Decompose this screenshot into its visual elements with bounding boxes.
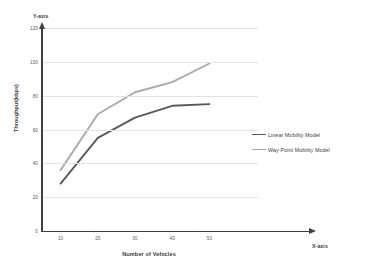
chart-figure: Y-axis X-axis Throughput(kbps) Number of… <box>0 0 368 276</box>
gridline <box>42 28 258 29</box>
x-axis-end-label: X-axis <box>312 243 328 249</box>
x-axis-arrow-icon <box>309 228 316 234</box>
x-axis-line <box>41 231 311 232</box>
y-tick-label: 120 <box>12 26 38 31</box>
x-tick-label: 20 <box>86 236 110 241</box>
gridline <box>42 96 258 97</box>
legend-item[interactable]: Way-Point Mobility Model <box>252 142 368 157</box>
x-tick-label: 10 <box>49 236 73 241</box>
x-axis-title: Number of Vehicles <box>74 251 224 257</box>
y-axis-end-label: Y-axis <box>33 13 49 19</box>
y-tick-label: 20 <box>12 195 38 200</box>
x-tick-label: 50 <box>197 236 221 241</box>
legend-label: Linear Mobility Model <box>268 132 320 138</box>
legend-item[interactable]: Linear Mobility Model <box>252 127 368 142</box>
x-tick-label: 30 <box>123 236 147 241</box>
legend-label: Way-Point Mobility Model <box>268 147 330 153</box>
series-line <box>61 104 210 184</box>
legend-line-swatch <box>252 134 266 136</box>
y-tick-label: 80 <box>12 93 38 98</box>
x-axis-tick-labels: 1020304050 <box>42 236 228 246</box>
y-axis-tick-labels: 020406080100120 <box>8 28 38 231</box>
y-tick-label: 100 <box>12 59 38 64</box>
legend-line-swatch <box>252 149 266 151</box>
y-axis-arrow-icon <box>39 22 45 29</box>
y-tick-label: 0 <box>12 229 38 234</box>
y-axis-line <box>41 29 43 232</box>
chart-legend: Linear Mobility ModelWay-Point Mobility … <box>252 127 368 157</box>
x-tick-label: 40 <box>160 236 184 241</box>
plot-area <box>42 28 228 231</box>
y-tick-label: 60 <box>12 127 38 132</box>
gridline <box>42 197 258 198</box>
y-tick-label: 40 <box>12 161 38 166</box>
gridline <box>42 130 258 131</box>
gridline <box>42 62 258 63</box>
gridline <box>42 163 258 164</box>
